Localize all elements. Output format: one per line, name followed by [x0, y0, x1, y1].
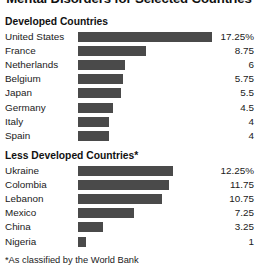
bar-value-label: 4: [249, 130, 255, 142]
bar-row: Japan5.5: [0, 87, 258, 100]
bar-value-label: 4.5: [240, 102, 254, 114]
bar-value-label: 12.25%: [221, 165, 255, 177]
chart-footnote: *As classified by the World Bank: [5, 255, 139, 265]
bar: [78, 222, 103, 232]
bar: [78, 180, 169, 190]
bar-value-label: 5.5: [240, 87, 254, 99]
bar: [78, 32, 212, 42]
bar-row: United States17.25%: [0, 31, 258, 44]
bar-label: Japan: [5, 87, 32, 99]
bar-row: Nigeria1: [0, 236, 258, 249]
bar-label: Netherlands: [5, 59, 58, 71]
bar-row: France8.75: [0, 45, 258, 58]
bar-value-label: 8.75: [235, 45, 254, 57]
bar-value-label: 11.75: [230, 179, 254, 191]
bar-label: United States: [5, 31, 64, 43]
bar-row: China3.25: [0, 221, 258, 234]
bar-row: Spain4: [0, 130, 258, 143]
bar: [78, 88, 121, 98]
bar-label: Colombia: [5, 179, 47, 191]
bar-label: China: [5, 221, 31, 233]
bar-value-label: 1: [249, 236, 255, 248]
bar: [78, 208, 134, 218]
bar-row: Mexico7.25: [0, 207, 258, 220]
bar: [78, 46, 146, 56]
bar: [78, 60, 125, 70]
bar-value-label: 3.25: [235, 221, 254, 233]
bar-row: Lebanon10.75: [0, 193, 258, 206]
bar-label: Mexico: [5, 207, 36, 219]
bar-label: France: [5, 45, 36, 57]
bar-row: Ukraine12.25%: [0, 165, 258, 178]
bar-label: Ukraine: [5, 165, 39, 177]
bar: [78, 131, 109, 141]
bar-value-label: 4: [249, 116, 255, 128]
bar-row: Italy4: [0, 116, 258, 129]
bar-label: Germany: [5, 102, 46, 114]
section-header-less-developed: Less Developed Countries*: [5, 150, 138, 161]
bar-label: Belgium: [5, 73, 41, 85]
bar-row: Colombia11.75: [0, 179, 258, 192]
bar: [78, 194, 162, 204]
bar-row: Netherlands6: [0, 59, 258, 72]
bar: [78, 166, 173, 176]
bar-label: Spain: [5, 130, 30, 142]
bar: [78, 74, 123, 84]
bar-value-label: 17.25%: [221, 31, 255, 43]
chart-title: Mental Disorders for Selected Countries: [0, 0, 258, 6]
bar-value-label: 6: [249, 59, 255, 71]
bar-label: Italy: [5, 116, 23, 128]
bar-label: Nigeria: [5, 236, 36, 248]
bar-label: Lebanon: [5, 193, 43, 205]
section-header-developed: Developed Countries: [5, 16, 108, 27]
bar-row: Germany4.5: [0, 102, 258, 115]
chart-container: Mental Disorders for Selected Countries …: [0, 0, 258, 269]
bar-value-label: 7.25: [235, 207, 254, 219]
bar: [78, 237, 86, 247]
bar-value-label: 10.75: [229, 193, 254, 205]
bar: [78, 103, 113, 113]
bar-row: Belgium5.75: [0, 73, 258, 86]
bar: [78, 117, 109, 127]
bar-value-label: 5.75: [235, 73, 254, 85]
